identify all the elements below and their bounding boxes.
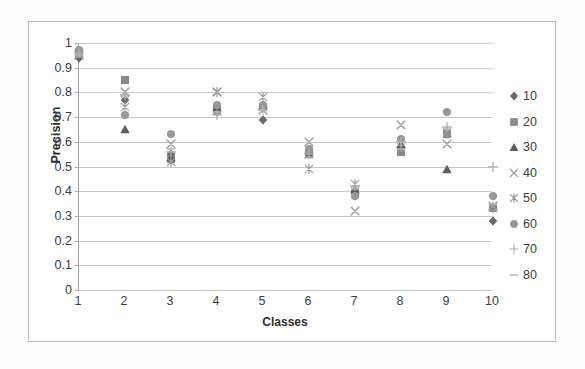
gridline: [79, 142, 492, 143]
data-point: [441, 163, 452, 174]
legend-item-label: 30: [523, 140, 537, 154]
circle-marker-icon: [505, 216, 522, 232]
data-point: [165, 156, 176, 167]
triangle-marker-icon: [505, 139, 522, 155]
data-point: [257, 92, 268, 103]
legend-item-30[interactable]: 30: [505, 139, 567, 155]
legend-item-80[interactable]: 80: [505, 267, 567, 283]
data-point: [73, 50, 84, 61]
y-axis-tick: [75, 265, 79, 266]
y-axis-tick: [75, 216, 79, 217]
y-axis-tick-label: 1: [65, 36, 72, 50]
data-point: [487, 203, 498, 214]
data-point: [441, 121, 452, 132]
gridline: [79, 167, 492, 168]
data-point: [119, 124, 130, 135]
data-point: [303, 163, 314, 174]
y-axis-tick-label: 0.1: [55, 258, 72, 272]
data-point: [257, 99, 268, 110]
data-point: [349, 205, 360, 216]
data-point: [395, 139, 406, 150]
data-point: [303, 144, 314, 155]
gridline: [79, 265, 492, 266]
x-axis-tick-label: 1: [75, 294, 82, 308]
data-point: [165, 129, 176, 140]
data-point: [487, 200, 498, 211]
data-point: [395, 134, 406, 145]
x-axis-tick-label: 8: [397, 294, 404, 308]
legend-item-70[interactable]: 70: [505, 241, 567, 257]
data-point: [73, 50, 84, 61]
data-point: [73, 45, 84, 56]
square-marker-icon: [505, 114, 522, 130]
legend-item-60[interactable]: 60: [505, 216, 567, 232]
data-point: [257, 99, 268, 110]
data-point: [119, 92, 130, 103]
y-axis-tick-label: 0.7: [55, 110, 72, 124]
x-axis-tick-label: 7: [351, 294, 358, 308]
data-point: [303, 146, 314, 157]
x-cross-marker-icon: [505, 165, 522, 181]
legend-item-50[interactable]: 50: [505, 190, 567, 206]
y-axis-tick: [75, 290, 79, 291]
data-point: [73, 47, 84, 58]
gridline: [79, 92, 492, 93]
data-point: [349, 181, 360, 192]
data-point: [303, 151, 314, 162]
y-axis-tick: [75, 191, 79, 192]
data-point: [303, 146, 314, 157]
data-point: [257, 104, 268, 115]
gridline: [79, 68, 492, 69]
data-point: [395, 119, 406, 130]
data-point: [441, 107, 452, 118]
data-point: [349, 178, 360, 189]
x-axis-tick-label: 3: [167, 294, 174, 308]
scatter-chart: Precision 10.90.80.70.60.50.40.30.20.10 …: [0, 0, 585, 369]
data-point: [487, 191, 498, 202]
data-point: [211, 107, 222, 118]
plus-marker-icon: [505, 241, 522, 257]
dash-marker-icon: [505, 267, 522, 283]
data-point: [349, 183, 360, 194]
data-point: [211, 99, 222, 110]
data-point: [119, 89, 130, 100]
gridline: [79, 43, 492, 44]
y-axis-tick-label: 0.3: [55, 209, 72, 223]
legend-item-label: 70: [523, 242, 537, 256]
data-point: [395, 141, 406, 152]
legend-item-10[interactable]: 10: [505, 88, 567, 104]
legend-item-20[interactable]: 20: [505, 114, 567, 130]
x-axis-tick-label: 2: [121, 294, 128, 308]
y-axis-tick: [75, 241, 79, 242]
legend-item-label: 80: [523, 268, 537, 282]
data-point: [211, 104, 222, 115]
data-point: [487, 198, 498, 209]
data-point: [211, 109, 222, 120]
data-point: [303, 149, 314, 160]
gridline: [79, 191, 492, 192]
legend-item-40[interactable]: 40: [505, 165, 567, 181]
data-point: [441, 129, 452, 140]
y-axis-tick-label: 0.9: [55, 61, 72, 75]
data-point: [487, 215, 498, 226]
data-point: [165, 149, 176, 160]
data-point: [349, 183, 360, 194]
gridline: [79, 241, 492, 242]
y-axis-tick-label: 0.5: [55, 160, 72, 174]
y-axis-tick-label: 0.8: [55, 85, 72, 99]
data-point: [441, 139, 452, 150]
data-point: [395, 141, 406, 152]
x-axis-title: Classes: [78, 315, 492, 329]
x-axis-tick-label: 5: [259, 294, 266, 308]
data-point: [119, 94, 130, 105]
y-axis-tick: [75, 167, 79, 168]
gridline: [79, 216, 492, 217]
x-axis-tick-label: 6: [305, 294, 312, 308]
data-point: [119, 74, 130, 85]
data-point: [165, 153, 176, 164]
data-point: [257, 104, 268, 115]
diamond-marker-icon: [505, 88, 522, 104]
legend-item-label: 40: [523, 166, 537, 180]
data-point: [441, 124, 452, 135]
data-point: [211, 107, 222, 118]
